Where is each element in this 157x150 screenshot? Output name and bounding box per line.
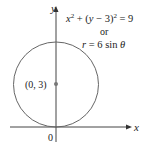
center-label: (0, 3) [25,79,47,91]
or-connector: or [100,26,109,37]
origin-label: 0 [48,132,53,143]
center-point [54,82,58,86]
polar-equation: r = 6 sin θ [82,39,125,50]
polar-circle-diagram: y x 0 (0, 3) x2 + (y − 3)2 = 9 or r = 6 … [0,0,157,150]
cartesian-equation: x2 + (y − 3)2 = 9 [65,12,133,25]
y-axis-label: y [50,2,56,14]
x-axis-label: x [133,121,139,133]
x-axis-arrow-icon [126,125,132,130]
